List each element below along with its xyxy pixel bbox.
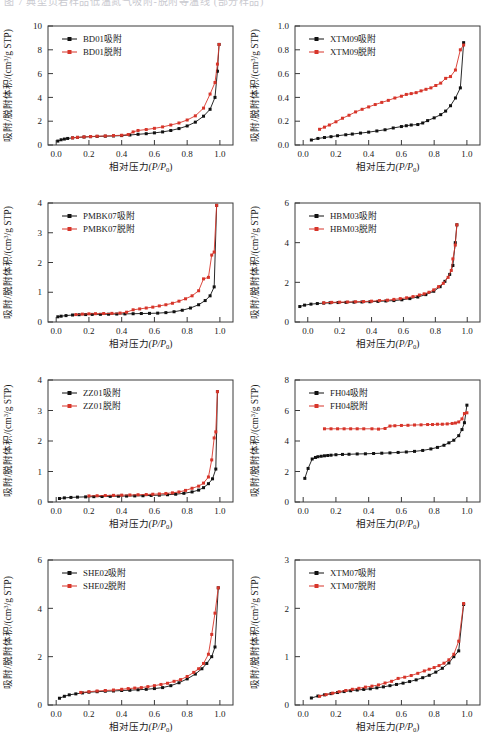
legend-marker: [315, 50, 319, 54]
legend-marker: [315, 584, 319, 588]
data-point: [454, 244, 457, 247]
data-point: [210, 633, 213, 636]
isotherm-plot-xtm09: 0.00.20.40.60.81.00.00.20.40.60.81.0相对压力…: [247, 12, 494, 189]
data-point: [415, 91, 418, 94]
data-point: [441, 667, 444, 670]
data-point: [186, 119, 189, 122]
data-point: [375, 686, 378, 689]
data-point: [202, 107, 205, 110]
y-tick-label: 2: [38, 436, 43, 446]
data-point: [429, 447, 432, 450]
y-axis-label: 吸附/脱附体积/(cm3/g STP): [2, 385, 15, 498]
data-point: [346, 300, 349, 303]
data-point: [102, 312, 105, 315]
cut-off-caption-strip: 图 7 典型页岩样品低温氮气吸附-脱附等温线 (部分样品): [0, 0, 495, 12]
legend-marker: [68, 214, 72, 218]
data-point: [132, 312, 135, 315]
legend-label: FH04脱附: [330, 400, 368, 411]
data-point: [169, 684, 172, 687]
x-tick-label: 0.6: [396, 709, 408, 719]
data-point: [119, 312, 122, 315]
data-point: [388, 425, 391, 428]
data-point: [307, 467, 310, 470]
legend-label: XTM07吸附: [330, 567, 376, 578]
x-tick-label: 0.8: [182, 149, 194, 159]
data-point: [462, 44, 465, 47]
x-tick-label: 0.2: [83, 709, 94, 719]
data-point: [158, 492, 161, 495]
data-point: [334, 453, 337, 456]
data-point: [429, 86, 432, 89]
data-point: [370, 300, 373, 303]
data-point: [186, 124, 189, 127]
data-point: [164, 311, 167, 314]
data-point: [74, 313, 77, 316]
x-axis-label: 相对压力(P/P0): [109, 721, 173, 733]
data-point: [434, 671, 437, 674]
data-point: [357, 687, 360, 690]
data-point: [420, 423, 423, 426]
data-point: [311, 457, 314, 460]
y-tick-label: 0: [38, 140, 43, 150]
data-point: [169, 124, 172, 127]
y-tick-label: 4: [38, 198, 43, 208]
y-tick-label: 6: [38, 69, 43, 79]
data-point: [454, 96, 457, 99]
series-line-adsorption: [311, 604, 463, 698]
data-point: [58, 697, 61, 700]
data-point: [400, 95, 403, 98]
y-axis-label: 吸附/脱附体积/(cm3/g STP): [2, 576, 15, 689]
data-point: [303, 304, 306, 307]
data-point: [298, 305, 301, 308]
data-point: [207, 276, 210, 279]
data-point: [370, 427, 373, 430]
data-point: [216, 390, 219, 393]
data-point: [423, 292, 426, 295]
data-point: [145, 132, 148, 135]
isotherm-plot-zz01: 012340.00.20.40.60.81.0相对压力(P/P0)吸附/脱附体积…: [0, 366, 247, 546]
data-point: [341, 453, 344, 456]
x-tick-label: 1.0: [214, 506, 226, 516]
data-point: [303, 477, 306, 480]
data-point: [127, 133, 130, 136]
data-point: [454, 422, 457, 425]
data-point: [194, 114, 197, 117]
data-point: [392, 298, 395, 301]
data-point: [463, 421, 466, 424]
data-point: [465, 404, 468, 407]
data-point: [416, 123, 419, 126]
data-point: [87, 494, 90, 497]
x-tick-label: 1.0: [461, 149, 473, 159]
data-point: [462, 602, 465, 605]
data-point: [428, 674, 431, 677]
data-point: [174, 493, 177, 496]
x-tick-label: 0.4: [363, 506, 375, 516]
data-point: [449, 104, 452, 107]
data-point: [186, 675, 189, 678]
data-point: [76, 496, 79, 499]
data-point: [431, 423, 434, 426]
y-tick-label: 2: [285, 467, 290, 477]
data-point: [177, 127, 180, 130]
data-point: [132, 308, 135, 311]
data-point: [384, 682, 387, 685]
data-point: [459, 48, 462, 51]
y-tick-label: 0: [285, 317, 290, 327]
x-axis-label: 相对压力(P/P0): [109, 338, 173, 350]
data-point: [439, 82, 442, 85]
data-point: [125, 311, 128, 314]
data-point: [338, 690, 341, 693]
data-point: [177, 300, 180, 303]
data-point: [436, 446, 439, 449]
data-point: [433, 666, 436, 669]
data-point: [378, 299, 381, 302]
legend-label: PMBK07脱附: [83, 223, 135, 234]
data-point: [182, 492, 185, 495]
data-point: [390, 680, 393, 683]
x-tick-label: 0.8: [429, 506, 441, 516]
x-tick-label: 1.0: [214, 149, 226, 159]
data-point: [382, 685, 385, 688]
x-tick-label: 0.4: [116, 709, 128, 719]
x-tick-label: 0.8: [430, 326, 442, 336]
data-point: [161, 130, 164, 133]
